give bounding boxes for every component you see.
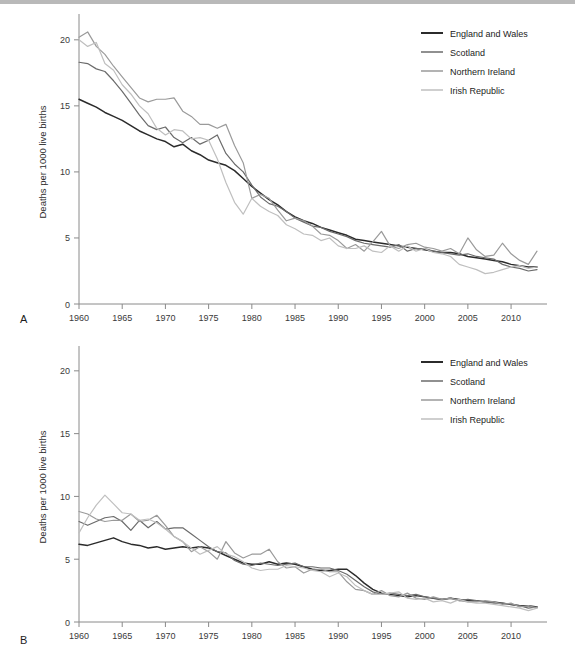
x-tick-label: 1965: [112, 313, 132, 323]
x-tick-label: 1985: [285, 631, 305, 641]
x-tick-label: 1990: [328, 313, 348, 323]
x-tick-label: 1960: [69, 313, 89, 323]
x-tick-label: 1965: [112, 631, 132, 641]
x-tick-label: 1970: [155, 631, 175, 641]
x-tick-label: 1980: [242, 631, 262, 641]
y-tick-label: 0: [65, 300, 70, 310]
y-tick-label: 10: [60, 167, 70, 177]
x-tick-label: 1995: [371, 631, 391, 641]
panel-label-b: B: [20, 634, 27, 646]
series-line-england-and-wales: [79, 538, 537, 607]
chart-b-svg: 0510152019601965197019751980198519901995…: [0, 340, 575, 650]
chart-panel-a: 0510152019601965197019751980198519901995…: [0, 4, 575, 340]
x-tick-label: 1960: [69, 631, 89, 641]
legend-label-irish-republic: Irish Republic: [450, 86, 505, 96]
x-tick-label: 2010: [501, 313, 521, 323]
x-tick-label: 1980: [242, 313, 262, 323]
chart-panel-b: 0510152019601965197019751980198519901995…: [0, 340, 575, 650]
series-line-northern-ireland: [79, 511, 537, 608]
x-tick-label: 2000: [415, 631, 435, 641]
y-tick-label: 5: [65, 233, 70, 243]
x-tick-label: 2010: [501, 631, 521, 641]
legend-label-england-and-wales: England and Wales: [450, 29, 528, 39]
legend-label-england-and-wales: England and Wales: [450, 358, 528, 368]
x-tick-label: 1995: [371, 313, 391, 323]
x-tick-label: 2005: [458, 631, 478, 641]
y-axis-title: Deaths per 1000 live births: [37, 105, 48, 218]
y-axis-title: Deaths per 1000 live births: [37, 430, 48, 543]
y-tick-label: 15: [60, 429, 70, 439]
legend-label-northern-ireland: Northern Ireland: [450, 67, 515, 77]
x-tick-label: 1975: [199, 631, 219, 641]
legend-label-irish-republic: Irish Republic: [450, 415, 505, 425]
x-tick-label: 2005: [458, 313, 478, 323]
legend-label-scotland: Scotland: [450, 377, 485, 387]
y-tick-label: 20: [60, 366, 70, 376]
x-tick-label: 1985: [285, 313, 305, 323]
y-tick-label: 10: [60, 492, 70, 502]
x-tick-label: 2000: [415, 313, 435, 323]
legend-label-northern-ireland: Northern Ireland: [450, 396, 515, 406]
x-tick-label: 1990: [328, 631, 348, 641]
y-tick-label: 0: [65, 618, 70, 628]
y-tick-label: 5: [65, 555, 70, 565]
series-line-irish-republic: [79, 495, 537, 611]
legend-label-scotland: Scotland: [450, 48, 485, 58]
chart-a-svg: 0510152019601965197019751980198519901995…: [0, 4, 575, 340]
y-tick-label: 20: [60, 35, 70, 45]
y-tick-label: 15: [60, 101, 70, 111]
panel-label-a: A: [20, 313, 27, 325]
x-tick-label: 1970: [155, 313, 175, 323]
series-line-scotland: [79, 517, 537, 609]
x-tick-label: 1975: [199, 313, 219, 323]
